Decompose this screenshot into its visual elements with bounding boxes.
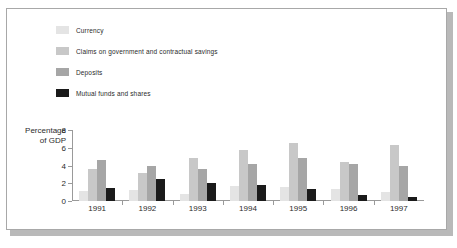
chart-legend: Currency Claims on government and contra… <box>56 22 386 106</box>
bar <box>298 158 307 201</box>
legend-label-currency: Currency <box>76 27 104 34</box>
bar-group: 1993 <box>173 130 223 201</box>
bar-group: 1996 <box>323 130 373 201</box>
legend-label-claims: Claims on government and contractual sav… <box>76 48 218 55</box>
bar <box>289 143 298 201</box>
bar-group-bars <box>173 130 223 201</box>
x-axis-tick-label: 1997 <box>374 204 424 213</box>
x-axis-tick-label: 1995 <box>273 204 323 213</box>
legend-label-mutual-funds: Mutual funds and shares <box>76 90 151 97</box>
y-axis-tick-label: 0 <box>62 197 66 206</box>
bar <box>399 166 408 202</box>
plot-area: 02468 1991199219931994199519961997 <box>72 130 424 201</box>
y-axis-tick <box>68 201 72 202</box>
bar <box>207 183 216 201</box>
bar <box>280 187 289 201</box>
bar-group: 1991 <box>72 130 122 201</box>
bar <box>147 166 156 201</box>
bar-group-bars <box>374 130 424 201</box>
legend-swatch-deposits <box>56 68 69 76</box>
legend-label-deposits: Deposits <box>76 69 103 76</box>
bar <box>129 190 138 201</box>
x-axis-tick-label: 1994 <box>223 204 273 213</box>
bar <box>79 191 88 201</box>
bar <box>331 189 340 201</box>
legend-item: Mutual funds and shares <box>56 85 386 101</box>
bar <box>307 189 316 201</box>
legend-item: Claims on government and contractual sav… <box>56 43 386 59</box>
bar <box>180 194 189 201</box>
bar <box>257 185 266 201</box>
bar <box>408 197 417 201</box>
bar-group: 1994 <box>223 130 273 201</box>
bar-group-bars <box>223 130 273 201</box>
bar <box>198 169 207 201</box>
y-axis-title-line-2: of GDP <box>12 136 66 146</box>
x-axis-tick-label: 1996 <box>323 204 373 213</box>
x-axis-tick-label: 1992 <box>122 204 172 213</box>
bar <box>230 186 239 201</box>
bar <box>138 173 147 201</box>
bar <box>358 195 367 201</box>
y-axis-tick-label: 6 <box>62 143 66 152</box>
y-axis-tick-label: 4 <box>62 161 66 170</box>
bar <box>189 158 198 201</box>
bar <box>381 192 390 201</box>
bar-group-bars <box>323 130 373 201</box>
bar-group-bars <box>273 130 323 201</box>
y-axis-tick-label: 2 <box>62 179 66 188</box>
bar <box>248 164 257 201</box>
bar <box>390 145 399 201</box>
legend-swatch-currency <box>56 26 69 34</box>
bar <box>97 160 106 201</box>
y-axis-title-line-1: Percentage <box>12 126 66 136</box>
bar <box>340 162 349 201</box>
x-axis-tick-label: 1991 <box>72 204 122 213</box>
legend-swatch-mutual-funds <box>56 89 69 97</box>
legend-swatch-claims <box>56 47 69 55</box>
bar <box>156 179 165 201</box>
bar-groups: 1991199219931994199519961997 <box>72 130 424 201</box>
bar <box>106 188 115 201</box>
bar-group: 1995 <box>273 130 323 201</box>
y-axis-title: Percentage of GDP <box>12 126 66 146</box>
chart-figure: Currency Claims on government and contra… <box>0 0 457 248</box>
legend-item: Currency <box>56 22 386 38</box>
x-axis-tick-label: 1993 <box>173 204 223 213</box>
bar-group-bars <box>72 130 122 201</box>
bar <box>349 164 358 201</box>
y-axis-tick-label: 8 <box>62 126 66 135</box>
bar <box>88 169 97 201</box>
bar-group: 1997 <box>374 130 424 201</box>
legend-item: Deposits <box>56 64 386 80</box>
bar-group-bars <box>122 130 172 201</box>
bar-group: 1992 <box>122 130 172 201</box>
bar <box>239 150 248 201</box>
